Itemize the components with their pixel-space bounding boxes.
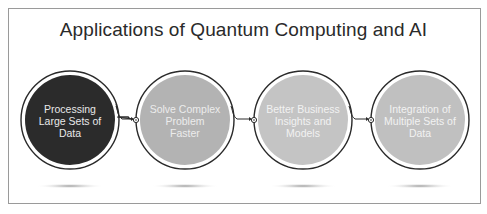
step-3-line-1: Better Business xyxy=(263,103,343,115)
step-4-line-1: Integration of xyxy=(380,103,460,115)
step-1-label: Processing Large Sets of Data xyxy=(30,103,110,139)
step-2-label: Solve Complex Problem Faster xyxy=(145,103,225,139)
step-2-line-3: Faster xyxy=(145,127,225,139)
step-2-line-1: Solve Complex xyxy=(145,103,225,115)
step-2-line-2: Problem xyxy=(145,115,225,127)
step-3-line-3: Models xyxy=(263,127,343,139)
shadow-1 xyxy=(36,184,104,189)
step-4-line-2: Multiple Sets of xyxy=(380,115,460,127)
step-4-line-3: Data xyxy=(380,127,460,139)
step-3-label: Better Business Insights and Models xyxy=(263,103,343,139)
step-1-line-2: Large Sets of xyxy=(30,115,110,127)
step-1-line-3: Data xyxy=(30,127,110,139)
shadow-2 xyxy=(151,184,219,189)
shadow-4 xyxy=(386,184,454,189)
step-1-line-1: Processing xyxy=(30,103,110,115)
shadow-3 xyxy=(269,184,337,189)
step-3-line-2: Insights and xyxy=(263,115,343,127)
step-4-label: Integration of Multiple Sets of Data xyxy=(380,103,460,139)
